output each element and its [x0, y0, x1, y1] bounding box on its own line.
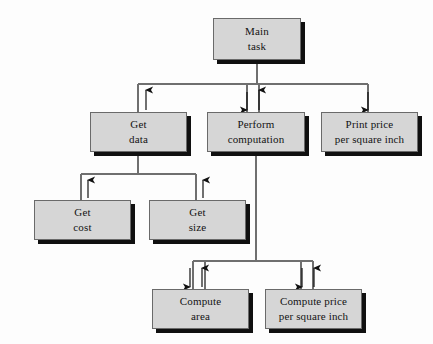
node-get-data[interactable]: Get data — [90, 112, 187, 152]
node-main-task[interactable]: Main task — [213, 18, 301, 60]
node-get-size[interactable]: Get size — [149, 200, 246, 240]
node-compute-area-line1: Compute — [180, 294, 221, 309]
node-print-price-line2: per square inch — [335, 132, 404, 147]
node-main-task-line1: Main — [245, 24, 269, 39]
node-print-price-per-square-inch[interactable]: Print price per square inch — [321, 112, 418, 152]
node-compute-price-per-square-inch[interactable]: Compute price per square inch — [265, 289, 362, 329]
node-perform-computation-line1: Perform — [237, 117, 274, 132]
node-perform-computation-line2: computation — [228, 132, 285, 147]
node-main-task-line2: task — [248, 39, 266, 54]
node-get-cost-line2: cost — [73, 220, 91, 235]
node-get-size-line1: Get — [189, 205, 205, 220]
structure-chart-diagram: Main task Get data Perform computation P… — [0, 0, 433, 344]
node-get-cost[interactable]: Get cost — [34, 200, 131, 240]
node-get-cost-line1: Get — [74, 205, 90, 220]
node-print-price-line1: Print price — [346, 117, 394, 132]
node-compute-price-line2: per square inch — [279, 309, 348, 324]
node-get-data-line2: data — [129, 132, 148, 147]
node-get-size-line2: size — [189, 220, 207, 235]
node-compute-price-line1: Compute price — [280, 294, 347, 309]
node-get-data-line1: Get — [130, 117, 146, 132]
node-compute-area-line2: area — [191, 309, 210, 324]
node-compute-area[interactable]: Compute area — [152, 289, 249, 329]
node-perform-computation[interactable]: Perform computation — [207, 112, 305, 152]
